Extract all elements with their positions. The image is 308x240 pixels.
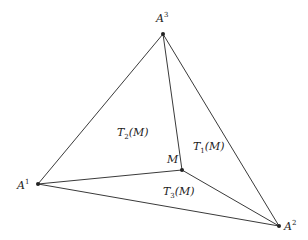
label-a1: A1 [16,178,29,192]
vertex-a2-dot [277,224,281,228]
point-m-dot [180,168,184,172]
region-label-t1: T1(M) [193,140,225,155]
region-label-t3: T3(M) [163,185,195,200]
label-a3: A3 [155,11,168,25]
vertex-a1-dot [36,182,40,186]
segment-m-a3 [163,34,182,170]
region-label-t2: T2(M) [117,126,149,141]
vertex-a3-dot [161,32,165,36]
label-a2: A2 [283,219,296,233]
edge-a1-a3 [38,34,163,184]
triangle-diagram: A3 A1 A2 M T2(M) T1(M) T3(M) [0,0,308,240]
segment-m-a1 [38,170,182,184]
label-m: M [166,153,179,166]
